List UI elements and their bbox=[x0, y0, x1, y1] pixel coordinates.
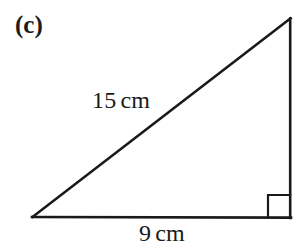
triangle-diagram bbox=[0, 0, 306, 248]
right-angle-marker-icon bbox=[268, 195, 290, 218]
base-length-label: 9cm bbox=[139, 221, 185, 245]
hypotenuse-length-label: 15cm bbox=[92, 88, 150, 112]
hypotenuse-length-unit: cm bbox=[120, 87, 150, 113]
base-length-unit: cm bbox=[155, 220, 185, 246]
base-length-value: 9 bbox=[139, 220, 151, 246]
hypotenuse-length-value: 15 bbox=[92, 87, 116, 113]
triangle-base-edge bbox=[32, 217, 291, 218]
part-label: (c) bbox=[15, 12, 43, 37]
triangle-hypotenuse-edge bbox=[33, 18, 291, 217]
geometry-figure: (c) 15cm 9cm bbox=[0, 0, 306, 248]
